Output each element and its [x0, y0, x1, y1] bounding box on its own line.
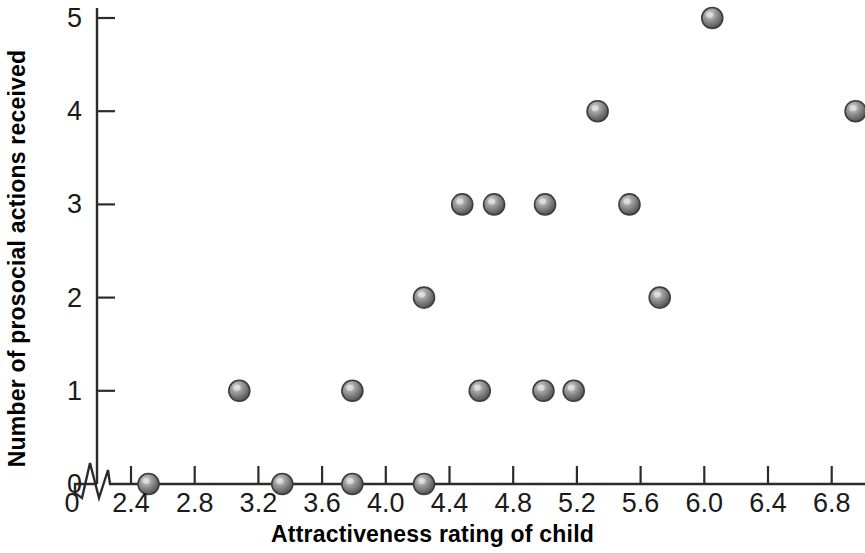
- data-point: [452, 194, 473, 215]
- y-tick-label: 2: [40, 284, 82, 311]
- x-tick-label: 6.4: [749, 490, 787, 517]
- data-point: [533, 380, 554, 401]
- y-axis-ticks: [97, 18, 115, 391]
- scatter-plot-figure: 2.42.83.23.64.04.44.85.25.66.06.46.80012…: [0, 0, 865, 553]
- x-tick-label: 4.8: [494, 490, 532, 517]
- data-point: [845, 101, 865, 122]
- y-tick-label: 5: [40, 5, 82, 32]
- y-axis-title: Number of prosocial actions received: [6, 9, 29, 509]
- data-point: [229, 380, 250, 401]
- x-axis-title: Attractiveness rating of child: [0, 523, 865, 546]
- data-point: [484, 194, 505, 215]
- x-axis-ticks: [131, 466, 832, 484]
- data-points: [138, 8, 865, 495]
- x-tick-label: 5.2: [558, 490, 596, 517]
- x-tick-label: 4.4: [431, 490, 469, 517]
- x-tick-label: 3.2: [240, 490, 278, 517]
- data-point: [342, 380, 363, 401]
- data-point: [535, 194, 556, 215]
- plot-canvas: [0, 0, 865, 553]
- y-tick-label: 4: [40, 98, 82, 125]
- data-point: [702, 8, 723, 29]
- x-tick-label: 2.8: [176, 490, 214, 517]
- data-point: [587, 101, 608, 122]
- x-tick-label: 2.4: [112, 490, 150, 517]
- data-point: [469, 380, 490, 401]
- x-tick-label: 5.6: [622, 490, 660, 517]
- x-tick-label: 6.0: [686, 490, 724, 517]
- y-tick-label: 0: [40, 471, 82, 498]
- data-point: [414, 287, 435, 308]
- x-tick-label: 3.6: [303, 490, 341, 517]
- y-tick-label: 1: [40, 377, 82, 404]
- x-tick-label: 4.0: [367, 490, 405, 517]
- data-point: [619, 194, 640, 215]
- y-tick-label: 3: [40, 191, 82, 218]
- axes: [75, 8, 865, 498]
- data-point: [563, 380, 584, 401]
- data-point: [342, 474, 363, 495]
- data-point: [649, 287, 670, 308]
- x-tick-label: 6.8: [813, 490, 851, 517]
